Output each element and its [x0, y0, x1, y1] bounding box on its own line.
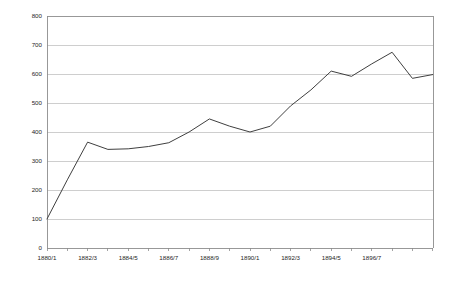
x-axis-tick-label: 1894/5	[322, 254, 341, 261]
x-axis-labels-group: 1880/11882/31884/51886/71888/91890/11892…	[38, 254, 382, 261]
y-axis-tick-label: 500	[32, 99, 43, 106]
chart-container: 8007006005004003002001000 1880/11882/318…	[0, 0, 456, 286]
x-axis-tick-label: 1882/3	[78, 254, 97, 261]
y-axis-tick-label: 100	[32, 215, 43, 222]
x-axis-tick-label: 1884/5	[119, 254, 138, 261]
x-axis-tick-label: 1880/1	[38, 254, 57, 261]
line-chart: 8007006005004003002001000 1880/11882/318…	[0, 0, 456, 286]
y-axis-tick-label: 0	[39, 244, 43, 251]
y-axis-tick-label: 400	[32, 128, 43, 135]
y-axis-tick-label: 600	[32, 70, 43, 77]
y-axis-tick-label: 700	[32, 41, 43, 48]
y-axis-labels-group: 8007006005004003002001000	[32, 12, 43, 251]
x-axis-tick-label: 1886/7	[159, 254, 178, 261]
series-line-1	[47, 52, 433, 219]
y-axis-tick-label: 200	[32, 186, 43, 193]
x-axis-tick-label: 1892/3	[281, 254, 300, 261]
x-axis-tick-label: 1888/9	[200, 254, 219, 261]
y-axis-tick-label: 800	[32, 12, 43, 19]
y-axis-tick-label: 300	[32, 157, 43, 164]
gridlines-group	[47, 45, 433, 219]
x-axis-tick-label: 1890/1	[241, 254, 260, 261]
x-axis-tick-label: 1896/7	[362, 254, 381, 261]
data-series-group	[47, 52, 433, 219]
